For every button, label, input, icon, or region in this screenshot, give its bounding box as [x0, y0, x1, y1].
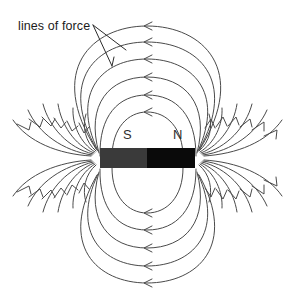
closed-loops-lower — [81, 168, 215, 283]
field-loop-upper-4 — [88, 59, 208, 151]
field-loop-upper-2 — [100, 95, 196, 156]
arrowhead-ur-6 — [264, 130, 277, 139]
arrowhead-ur-2 — [216, 117, 227, 127]
arrowhead-lr-6 — [264, 177, 277, 186]
magnetic-field-diagram: lines of force S N — [0, 0, 293, 295]
open-line-lr-4 — [202, 162, 252, 212]
arrowheads-top — [144, 22, 152, 116]
open-line-ur-6 — [204, 120, 282, 156]
field-loop-lower-5 — [81, 175, 215, 283]
open-line-lr-6 — [204, 160, 282, 196]
open-line-ur-4 — [202, 104, 252, 154]
closed-loops-upper — [75, 26, 221, 157]
arrowhead-ll-6 — [17, 186, 31, 194]
arrowhead-lr-1 — [205, 188, 215, 197]
open-lines-lower-left — [13, 160, 96, 212]
open-line-ll-5 — [28, 161, 92, 206]
field-loop-upper-6 — [75, 26, 221, 149]
arrowhead-ul-6 — [17, 122, 31, 130]
open-line-ll-4 — [43, 162, 93, 212]
open-line-lr-5 — [203, 161, 267, 206]
north-pole-label: N — [173, 127, 182, 142]
leader-line-tick — [112, 57, 114, 66]
arrowhead-lr-2 — [216, 189, 227, 199]
field-loop-upper-3 — [95, 77, 200, 153]
open-line-ur-2 — [200, 108, 222, 152]
open-lines-upper-right — [199, 104, 282, 156]
field-loop-lower-4 — [88, 174, 208, 266]
open-lines-upper-left — [13, 104, 96, 156]
open-line-ul-6 — [13, 120, 91, 156]
field-loop-upper-5 — [81, 42, 215, 150]
lines-of-force-label: lines of force — [18, 19, 90, 33]
magnet-north-half — [147, 148, 195, 168]
field-loop-lower-3 — [95, 172, 200, 248]
open-line-ul-2 — [73, 108, 95, 152]
bar-magnet — [100, 148, 195, 168]
magnet-south-half — [100, 148, 147, 168]
open-line-ll-6 — [13, 160, 91, 196]
field-loop-lower-2 — [100, 169, 196, 230]
leader-line-1 — [93, 25, 126, 50]
field-loop-lower-1 — [112, 168, 183, 213]
south-pole-label: S — [123, 127, 132, 142]
open-line-ul-5 — [28, 110, 92, 155]
